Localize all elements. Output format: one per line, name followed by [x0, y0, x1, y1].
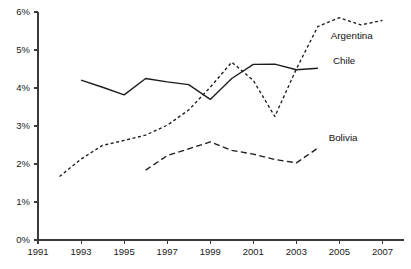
y-tick-label: 3%	[16, 120, 30, 131]
series-label-bolivia: Bolivia	[329, 132, 358, 143]
y-tick-label: 5%	[16, 44, 30, 55]
series-group	[60, 18, 383, 177]
series-line-chile	[81, 64, 318, 99]
x-tick-label: 1991	[27, 246, 48, 257]
x-tick-label: 1993	[70, 246, 91, 257]
x-tick-label: 2007	[372, 246, 393, 257]
series-label-chile: Chile	[333, 55, 356, 66]
x-tick-label: 1999	[200, 246, 221, 257]
chart-canvas: 0%1%2%3%4%5%6% 1991199319951997199920012…	[0, 0, 411, 269]
y-tick-label: 4%	[16, 82, 30, 93]
y-axis: 0%1%2%3%4%5%6%	[16, 6, 38, 245]
x-tick-label: 2005	[329, 246, 350, 257]
y-tick-group: 0%1%2%3%4%5%6%	[16, 6, 38, 245]
x-tick-label: 2001	[243, 246, 264, 257]
series-line-argentina	[60, 18, 383, 177]
y-tick-label: 0%	[16, 234, 30, 245]
y-tick-label: 2%	[16, 158, 30, 169]
line-chart: 0%1%2%3%4%5%6% 1991199319951997199920012…	[0, 0, 411, 269]
y-tick-label: 6%	[16, 6, 30, 17]
series-line-bolivia	[146, 142, 318, 170]
series-label-group: ArgentinaChileBolivia	[329, 30, 374, 143]
x-tick-label: 1995	[114, 246, 135, 257]
y-tick-label: 1%	[16, 196, 30, 207]
x-tick-group: 199119931995199719992001200320052007	[27, 240, 393, 257]
x-axis: 199119931995199719992001200320052007	[27, 240, 404, 257]
x-tick-label: 1997	[157, 246, 178, 257]
series-label-argentina: Argentina	[331, 30, 373, 41]
x-tick-label: 2003	[286, 246, 307, 257]
